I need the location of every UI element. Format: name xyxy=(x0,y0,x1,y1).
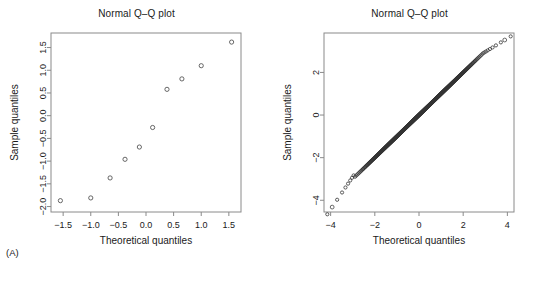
y-tick-label: −1.0 xyxy=(38,152,48,170)
data-point xyxy=(336,198,339,201)
data-point xyxy=(58,199,62,203)
y-axis-title: Sample quantiles xyxy=(282,84,293,161)
data-points xyxy=(58,40,233,203)
plot-frame xyxy=(324,33,514,212)
y-tick-label: 0.5 xyxy=(38,87,48,100)
x-tick-label: 1.5 xyxy=(223,220,236,230)
data-point xyxy=(151,125,155,129)
y-tick-label: 1.0 xyxy=(38,64,48,77)
y-tick-label: −1.5 xyxy=(38,175,48,193)
data-point xyxy=(344,186,347,189)
x-tick-label: −2 xyxy=(370,220,380,230)
x-axis-title: Theoretical quantiles xyxy=(373,235,465,246)
y-tick-label: −4 xyxy=(311,195,321,205)
y-tick-label: 1.5 xyxy=(38,41,48,54)
y-axis-title: Sample quantiles xyxy=(9,84,20,161)
panel-a-caption: (A) xyxy=(6,247,19,258)
data-point xyxy=(199,64,203,68)
panel-b-plot: −4−2024−4−202Theoretical quantilesSample… xyxy=(273,0,546,246)
data-point-extreme xyxy=(330,205,334,209)
data-point xyxy=(346,182,349,185)
data-point-extreme xyxy=(503,38,507,42)
x-tick-label: 0.5 xyxy=(167,220,180,230)
data-point xyxy=(165,87,169,91)
y-tick-label: 0.0 xyxy=(38,109,48,122)
data-point xyxy=(123,157,127,161)
data-points xyxy=(326,35,513,216)
x-tick-label: −1.5 xyxy=(54,220,72,230)
x-tick-label: 1.0 xyxy=(195,220,208,230)
x-tick-label: 2 xyxy=(461,220,466,230)
y-tick-label: −0.5 xyxy=(38,130,48,148)
data-point xyxy=(180,77,184,81)
x-tick-label: 4 xyxy=(505,220,510,230)
data-point xyxy=(509,35,512,38)
plot-frame xyxy=(51,33,241,212)
x-tick-label: 0 xyxy=(416,220,421,230)
data-point xyxy=(108,176,112,180)
panel-b: Normal Q–Q plot −4−2024−4−202Theoretical… xyxy=(273,0,546,289)
data-point xyxy=(494,44,497,47)
data-point xyxy=(137,145,141,149)
data-point xyxy=(499,41,502,44)
x-tick-label: −4 xyxy=(325,220,335,230)
x-tick-label: 0.0 xyxy=(140,220,153,230)
data-point xyxy=(491,46,494,49)
y-tick-label: 2 xyxy=(311,70,321,75)
y-tick-label: −2.0 xyxy=(38,198,48,216)
y-tick-label: 0 xyxy=(311,113,321,118)
data-point xyxy=(326,213,329,216)
x-tick-label: −0.5 xyxy=(109,220,127,230)
panel-a: Normal Q–Q plot −1.5−1.0−0.50.00.51.01.5… xyxy=(0,0,273,289)
panel-a-plot: −1.5−1.0−0.50.00.51.01.5−2.0−1.5−1.0−0.5… xyxy=(0,0,273,246)
data-point xyxy=(340,191,343,194)
y-tick-label: −2 xyxy=(311,153,321,163)
data-point xyxy=(89,196,93,200)
x-axis-title: Theoretical quantiles xyxy=(100,235,192,246)
qq-plot-figure: Normal Q–Q plot −1.5−1.0−0.50.00.51.01.5… xyxy=(0,0,546,289)
data-point xyxy=(230,40,234,44)
x-tick-label: −1.0 xyxy=(82,220,100,230)
